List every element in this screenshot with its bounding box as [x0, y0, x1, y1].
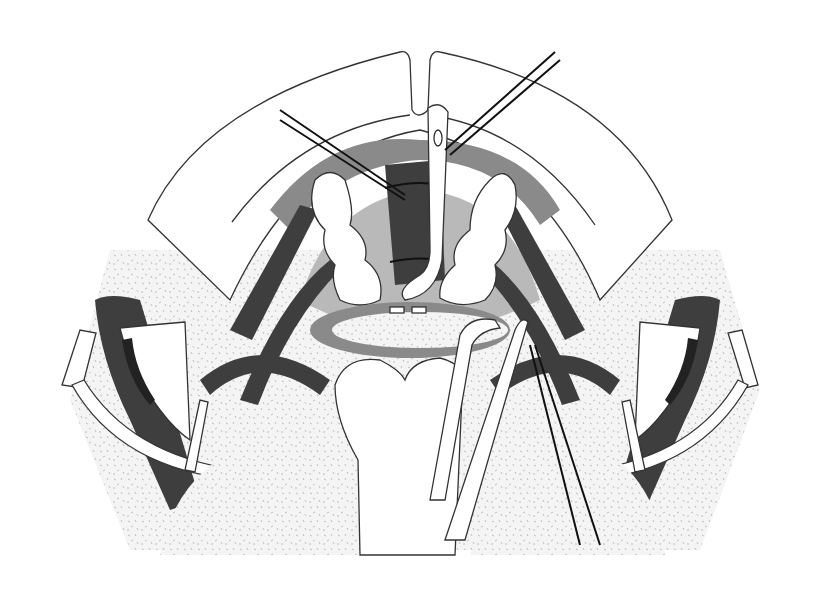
- surgical-illustration: [0, 0, 827, 605]
